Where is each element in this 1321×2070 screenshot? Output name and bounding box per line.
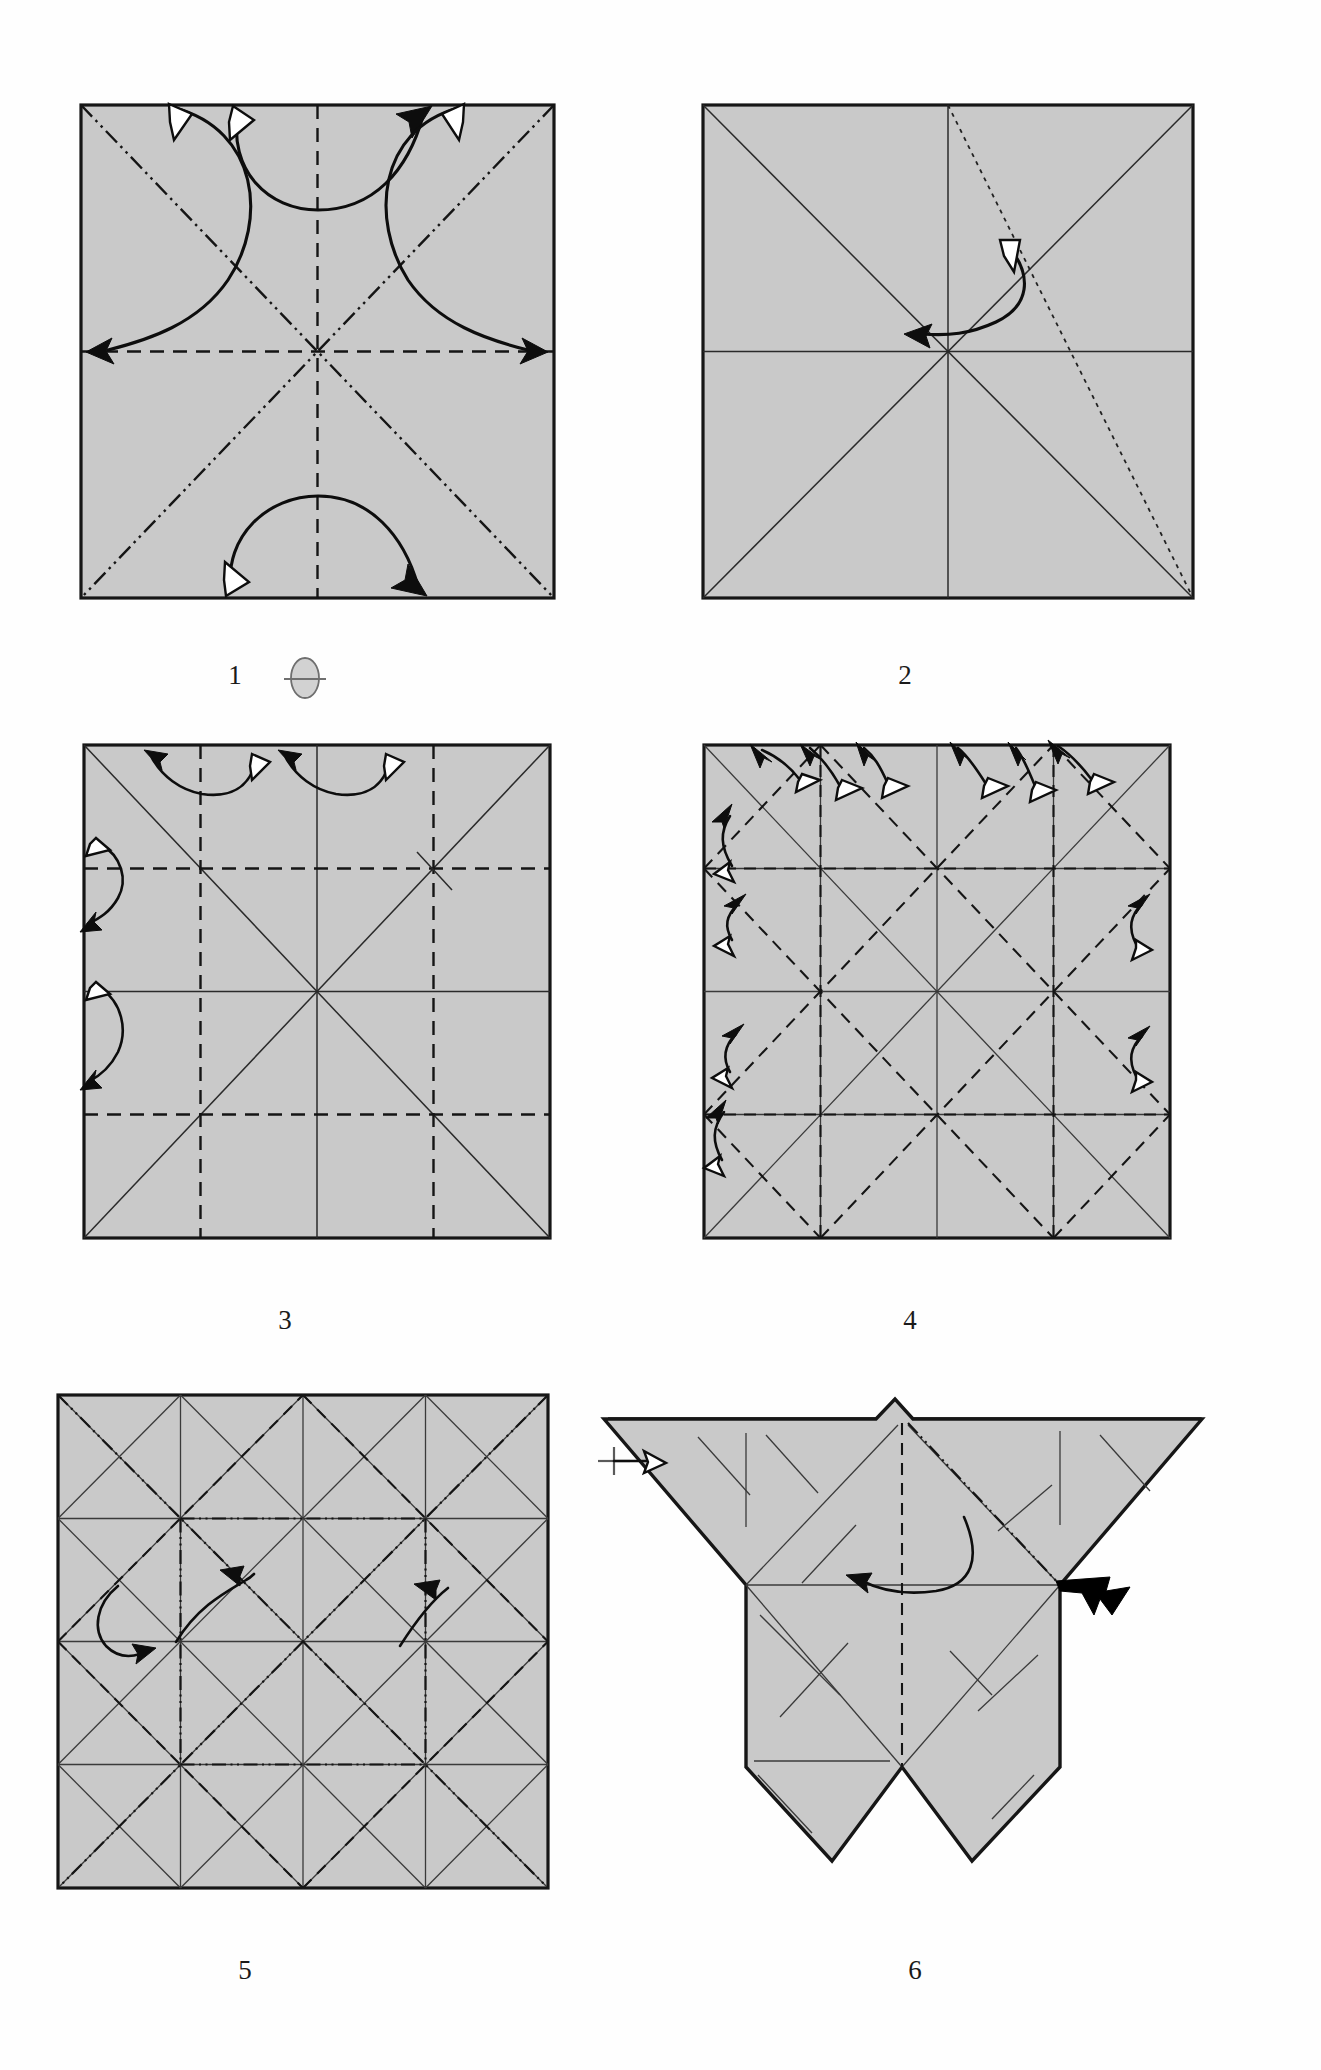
step-4-figure xyxy=(680,740,1200,1250)
step-3-panel xyxy=(60,740,580,1250)
step-3-caption: 3 xyxy=(255,1305,315,1336)
step-5-panel xyxy=(48,1390,568,1900)
step-5-figure xyxy=(48,1390,568,1900)
step-1-panel xyxy=(78,100,578,610)
step-5-caption: 5 xyxy=(215,1955,275,1986)
step-1-caption: 1 xyxy=(205,660,265,691)
step-3-figure xyxy=(60,740,580,1250)
step-1-figure xyxy=(78,100,578,610)
origami-diagram-page: 1 2 xyxy=(0,0,1321,2070)
step-2-caption: 2 xyxy=(875,660,935,691)
step-4-caption: 4 xyxy=(880,1305,940,1336)
step-6-panel xyxy=(590,1375,1230,1915)
step-6-figure xyxy=(590,1375,1230,1915)
step-2-panel xyxy=(700,100,1220,610)
push-arrow-shape xyxy=(1056,1577,1130,1615)
step-2-figure xyxy=(700,100,1220,610)
turn-over-ellipse xyxy=(291,658,319,698)
turn-over-symbol xyxy=(280,650,330,706)
push-in-arrow-right xyxy=(1056,1577,1130,1615)
step-6-caption: 6 xyxy=(885,1955,945,1986)
step-4-panel xyxy=(680,740,1200,1250)
